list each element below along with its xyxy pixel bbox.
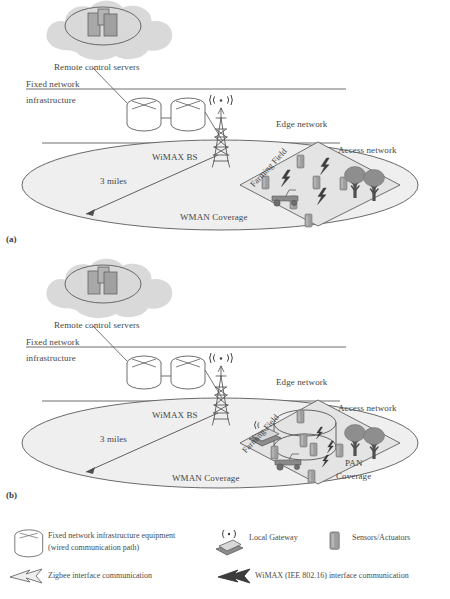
zigbee-arrow-icon: [10, 569, 42, 583]
diagram-panel-b: Remote control servers Fixed network inf…: [0, 258, 450, 508]
router-1-b: [127, 356, 161, 389]
legend-label-0-line1: Fixed network infrastructure equipment: [48, 531, 175, 541]
legend-label-3: Zigbee interface communication: [48, 571, 152, 581]
pan-coverage-label-b: Coverage: [336, 471, 371, 481]
panel-b-graphics: [0, 258, 450, 508]
legend-label-2: Sensors/Actuators: [352, 533, 410, 543]
antenna-waves-icon-a: [210, 95, 232, 105]
pan-label-b: PAN: [345, 458, 362, 468]
wimax-bolt-icon: [218, 569, 250, 583]
distance-label-a: 3 miles: [100, 176, 127, 186]
cloud-label-a: Remote control servers: [54, 62, 140, 72]
access-network-label-a: Access network: [338, 145, 397, 155]
fixed-network-label-a-line1: Fixed network: [26, 79, 80, 89]
fixed-network-label-b-line1: Fixed network: [26, 337, 80, 347]
wman-coverage-label-b: WMAN Coverage: [172, 473, 240, 483]
legend-label-4: WiMAX (IEE 802.16) interface communicati…: [255, 571, 409, 581]
distance-label-b: 3 miles: [100, 434, 127, 444]
router-1-a: [127, 98, 161, 131]
edge-network-label-a: Edge network: [276, 119, 327, 129]
cloud-label-b: Remote control servers: [54, 320, 140, 330]
diagram-panel-a: Remote control servers Fixed network inf…: [0, 0, 450, 250]
panel-tag-a: (a): [6, 234, 17, 244]
legend-label-0-line2: (wired communication path): [48, 543, 139, 553]
legend: Fixed network infrastructure equipment (…: [0, 520, 450, 599]
router-2-a: [171, 98, 205, 131]
access-network-label-b: Access network: [338, 403, 397, 413]
panel-tag-b: (b): [6, 490, 17, 500]
fixed-network-label-b-line2: infrastructure: [26, 353, 76, 363]
legend-label-1: Local Gateway: [249, 533, 298, 543]
wimax-bs-label-a: WiMAX BS: [152, 152, 198, 162]
cloud-router-link-b: [93, 326, 127, 361]
fixed-network-label-a-line2: infrastructure: [26, 95, 76, 105]
wman-coverage-label-a: WMAN Coverage: [180, 212, 248, 222]
router-2-b: [171, 356, 205, 389]
antenna-waves-icon-b: [210, 353, 232, 363]
wimax-bs-label-b: WiMAX BS: [152, 410, 198, 420]
cylinder-router-icon: [15, 530, 43, 557]
cloud-router-link-a: [93, 68, 127, 103]
edge-network-label-b: Edge network: [276, 377, 327, 387]
sensor-actuator-icon: [330, 532, 339, 549]
local-gateway-icon: [216, 530, 243, 555]
figure-page: Remote control servers Fixed network inf…: [0, 0, 450, 599]
